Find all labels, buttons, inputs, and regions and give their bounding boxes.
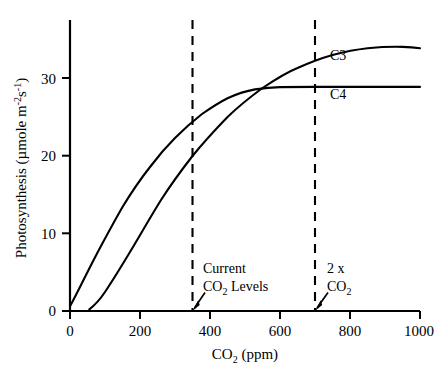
chart-background	[0, 0, 443, 375]
chart-canvas: 0 10 20 30 0 200 400 600 800 1000 CO2 (p…	[0, 0, 443, 375]
x-axis-title-tail: (ppm)	[238, 346, 278, 363]
x-tick-label-800: 800	[339, 323, 362, 339]
x-tick-label-400: 400	[199, 323, 222, 339]
x-tick-label-600: 600	[269, 323, 292, 339]
annotation-current-co2-line1: Current	[203, 261, 246, 276]
y-tick-label-30: 30	[41, 71, 56, 87]
y-tick-label-10: 10	[41, 226, 56, 242]
annotation-current-co2-base: CO	[203, 279, 222, 294]
y-tick-label-20: 20	[41, 148, 56, 164]
annotation-double-co2-line1: 2 x	[327, 261, 345, 276]
x-tick-label-1000: 1000	[404, 323, 434, 339]
x-tick-label-200: 200	[129, 323, 152, 339]
annotation-current-co2-tail: Levels	[227, 279, 268, 294]
annotation-double-co2-subscript: 2	[346, 286, 351, 297]
photosynthesis-co2-chart: 0 10 20 30 0 200 400 600 800 1000 CO2 (p…	[0, 0, 443, 375]
y-axis-title-sup1: -2	[12, 97, 23, 105]
y-tick-label-0: 0	[49, 303, 57, 319]
x-axis-title-base: CO	[212, 346, 233, 362]
y-axis-title-main: Photosynthesis (µmole m	[13, 105, 30, 258]
annotation-double-co2-base: CO	[327, 279, 346, 294]
curve-label-c4: C4	[330, 87, 346, 102]
y-axis-title-sup2: -1	[12, 83, 23, 91]
y-axis-title-tail: )	[13, 78, 30, 83]
x-tick-label-0: 0	[66, 323, 74, 339]
curve-label-c3: C3	[330, 48, 346, 63]
